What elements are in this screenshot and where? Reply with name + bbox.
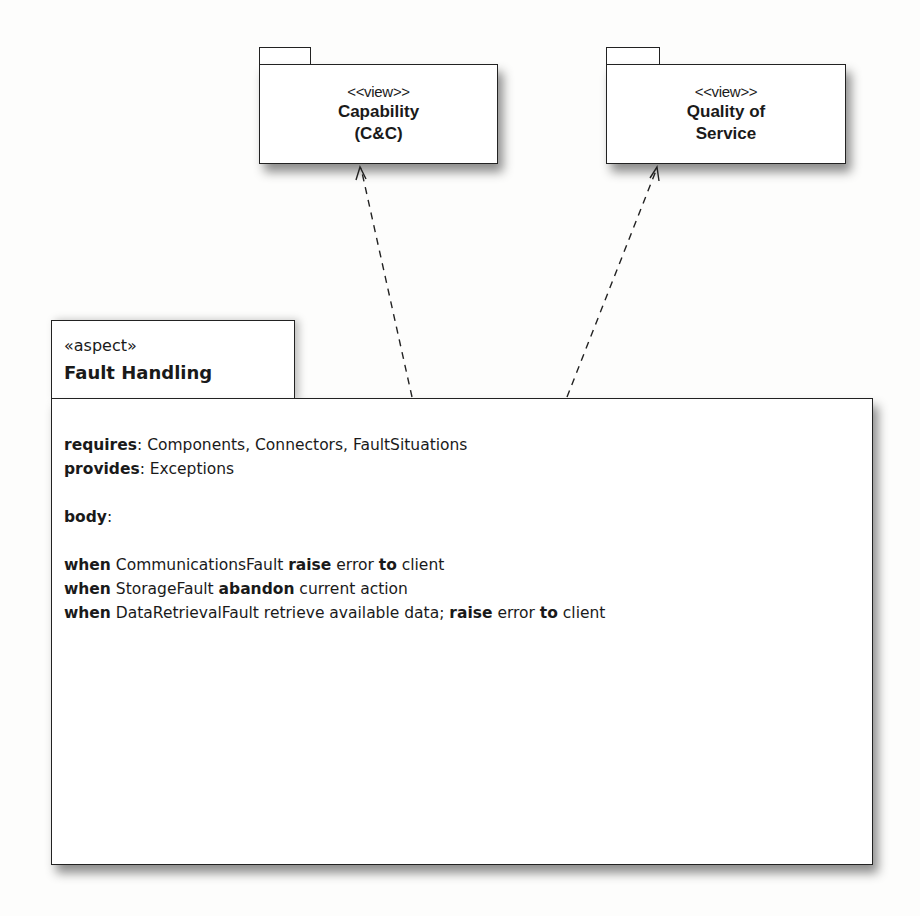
rule-text: client (558, 604, 606, 622)
rule-text: error (492, 604, 539, 622)
rule-keyword: raise (288, 556, 331, 574)
rule-keyword: when (64, 580, 111, 598)
provides-label: provides (64, 460, 140, 478)
qos-name-line-2: Service (696, 123, 757, 145)
requires-line: requires: Components, Connectors, FaultS… (64, 433, 872, 457)
spacer (64, 481, 872, 505)
spacer (64, 529, 872, 553)
requires-label: requires (64, 436, 137, 454)
requires-value: : Components, Connectors, FaultSituation… (137, 436, 467, 454)
aspect-stereotype: «aspect» (64, 335, 294, 357)
arrowhead-icon (650, 167, 659, 181)
fault-handling-package[interactable]: requires: Components, Connectors, FaultS… (51, 398, 873, 865)
qos-package[interactable]: <<view>> Quality of Service (606, 64, 846, 164)
capability-package-tab (259, 47, 311, 65)
rule-keyword: to (540, 604, 558, 622)
provides-line: provides: Exceptions (64, 457, 872, 481)
capability-name-line-2: (C&C) (354, 123, 402, 145)
rule-line: when DataRetrievalFault retrieve availab… (64, 601, 872, 625)
capability-stereotype: <<view>> (347, 83, 410, 101)
qos-stereotype: <<view>> (695, 83, 758, 101)
aspect-name: Fault Handling (64, 359, 294, 387)
rule-keyword: when (64, 556, 111, 574)
rule-keyword: abandon (219, 580, 295, 598)
rule-text: StorageFault (111, 580, 219, 598)
qos-package-tab (606, 47, 660, 65)
body-colon: : (107, 508, 112, 526)
qos-name-line-1: Quality of (687, 101, 765, 123)
dependency-to-capability (361, 168, 412, 397)
rule-text: error (331, 556, 378, 574)
rule-line: when StorageFault abandon current action (64, 577, 872, 601)
rule-keyword: to (379, 556, 397, 574)
rule-text: DataRetrievalFault retrieve available da… (111, 604, 449, 622)
fault-handling-package-tab[interactable]: «aspect» Fault Handling (51, 320, 295, 400)
dependency-to-qos (567, 168, 657, 397)
body-line: body: (64, 505, 872, 529)
rule-keyword: when (64, 604, 111, 622)
body-label: body (64, 508, 107, 526)
rule-line: when CommunicationsFault raise error to … (64, 553, 872, 577)
arrowhead-icon (356, 167, 366, 180)
rule-text: client (397, 556, 445, 574)
capability-package[interactable]: <<view>> Capability (C&C) (259, 64, 498, 164)
rule-text: current action (294, 580, 407, 598)
capability-name-line-1: Capability (338, 101, 419, 123)
rule-text: CommunicationsFault (111, 556, 288, 574)
rules-list: when CommunicationsFault raise error to … (64, 553, 872, 625)
provides-value: : Exceptions (140, 460, 235, 478)
rule-keyword: raise (449, 604, 492, 622)
